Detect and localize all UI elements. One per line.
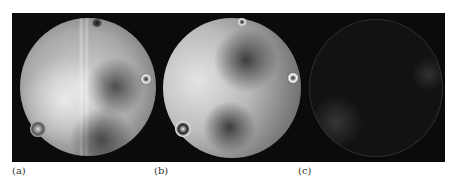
vortex-b-left	[175, 121, 191, 137]
panel-b-label: (b)	[154, 165, 168, 176]
panel-a-image	[12, 13, 157, 162]
figure-strip	[12, 13, 445, 162]
disk-b	[163, 18, 301, 158]
vortex-a-left	[30, 121, 46, 137]
disk-c	[309, 19, 443, 157]
panel-c-image	[305, 13, 445, 162]
vortex-b-right	[287, 72, 299, 84]
vortex-a-top	[92, 19, 102, 27]
vortex-b-top	[237, 18, 247, 26]
vortex-a-right	[140, 73, 152, 85]
panel-b-image	[157, 13, 305, 162]
panel-c-label: (c)	[298, 165, 311, 176]
panel-a-label: (a)	[12, 165, 26, 176]
